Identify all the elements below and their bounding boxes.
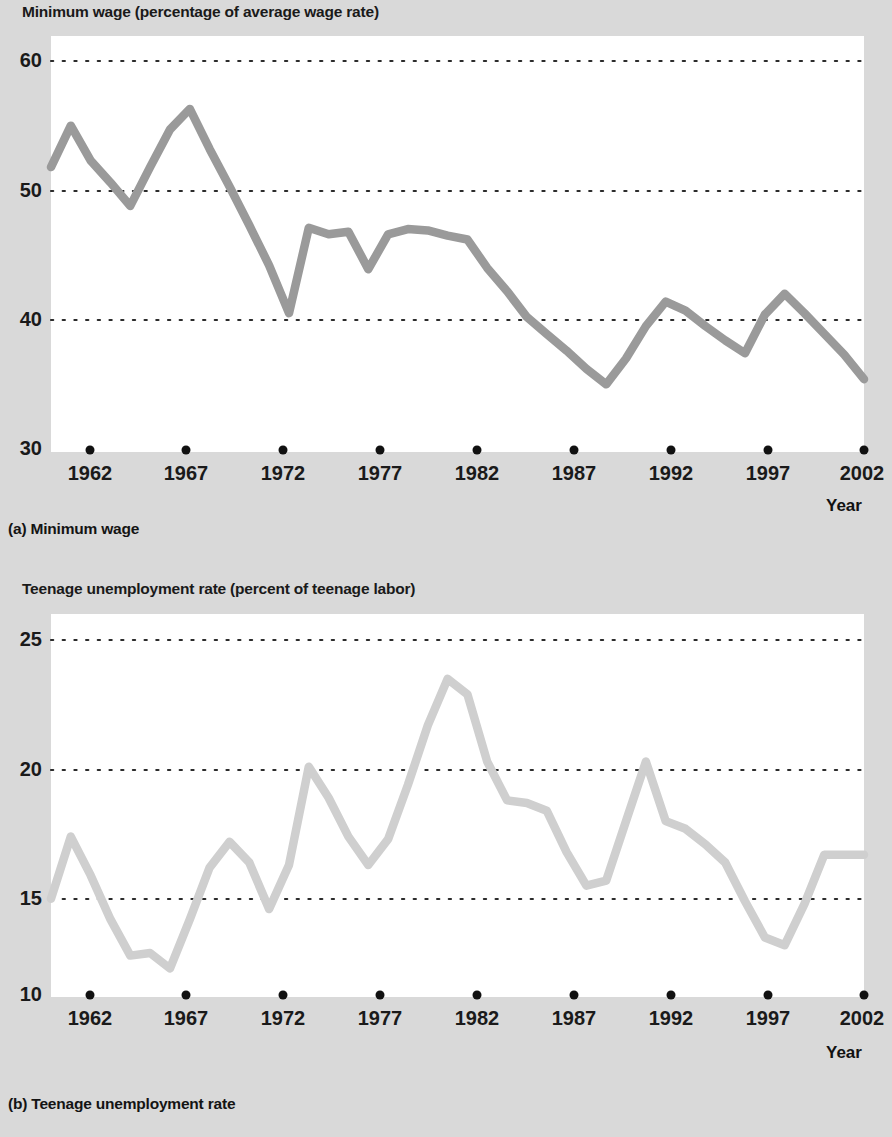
panel-b-xtick-1962: 1962 <box>68 1007 113 1030</box>
panel-b-xtick-dot <box>570 991 579 1000</box>
panel-b-ytick-15: 15 <box>0 887 42 910</box>
panel-b-xtick-dot <box>182 991 191 1000</box>
panel-b-ytick-10: 10 <box>0 983 42 1006</box>
panel-b-caption: (b) Teenage unemployment rate <box>8 1095 235 1113</box>
panel-b-xtick-dot <box>473 991 482 1000</box>
panel-b-xtick-dot <box>860 991 869 1000</box>
panel-b-xtick-1997: 1997 <box>746 1007 791 1030</box>
panel-b-ytick-20: 20 <box>0 758 42 781</box>
panel-b-xtick-2002: 2002 <box>840 1007 885 1030</box>
panel-b-xtick-dot <box>279 991 288 1000</box>
panel-b-xtick-1992: 1992 <box>649 1007 694 1030</box>
panel-b-xtick-1967: 1967 <box>164 1007 209 1030</box>
series-teenage-unemployment <box>51 679 864 969</box>
panel-b-xtick-dot <box>764 991 773 1000</box>
panel-b-xtick-1972: 1972 <box>261 1007 306 1030</box>
panel-b-xtick-dot <box>667 991 676 1000</box>
panel-b-xaxis-title: Year <box>826 1043 862 1063</box>
panel-b-ytick-25: 25 <box>0 628 42 651</box>
panel-b-xtick-dot <box>376 991 385 1000</box>
panel-b-svg <box>0 0 892 1137</box>
panel-b-xtick-dot <box>86 991 95 1000</box>
panel-b-xtick-1987: 1987 <box>552 1007 597 1030</box>
panel-b-xtick-1982: 1982 <box>455 1007 500 1030</box>
panel-b-xtick-1977: 1977 <box>358 1007 403 1030</box>
